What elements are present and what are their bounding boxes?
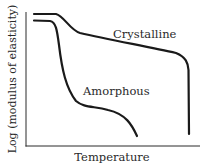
- crystalline-label: Crystalline: [113, 27, 177, 41]
- x-axis-title: Temperature: [74, 150, 150, 164]
- chart: Crystalline Amorphous Temperature Log (m…: [0, 0, 211, 168]
- amorphous-label: Amorphous: [82, 84, 150, 98]
- y-axis-title: Log (modulus of elasticity): [6, 5, 19, 154]
